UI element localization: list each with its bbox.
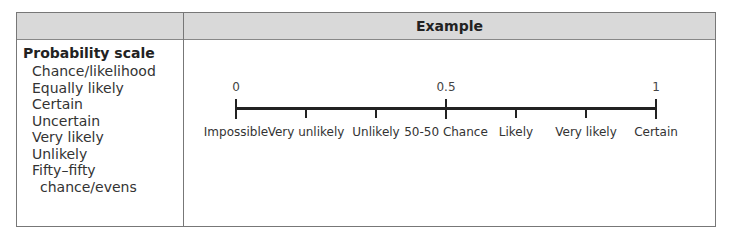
scale-number: 1 <box>652 80 660 94</box>
vocab-item: Uncertain <box>23 113 179 130</box>
scale-number: 0.5 <box>436 80 455 94</box>
vocab-item: chance/evens <box>23 179 179 196</box>
scale-label: Very likely <box>555 125 617 139</box>
tick-minor <box>515 108 517 118</box>
tick-major <box>235 99 237 119</box>
scale-label: Very unlikely <box>268 125 345 139</box>
vocab-item: Certain <box>23 96 179 113</box>
tick-minor <box>305 108 307 118</box>
tick-major <box>445 99 447 119</box>
vocab-item: Equally likely <box>23 80 179 97</box>
vocab-item: Unlikely <box>23 146 179 163</box>
scale-label: Impossible <box>204 125 268 139</box>
probability-table: Example Probability scale Chance/likelih… <box>16 12 716 227</box>
tick-major <box>655 99 657 119</box>
probability-scale: 0 0.5 1 Impossible Very unlikely Unlikel… <box>184 40 715 226</box>
scale-number: 0 <box>232 80 240 94</box>
scale-label: Unlikely <box>352 125 399 139</box>
scale-label: 50-50 Chance <box>404 125 488 139</box>
vocab-item: Fifty–fifty <box>23 162 179 179</box>
scale-label: Likely <box>499 125 533 139</box>
vocabulary-heading: Probability scale <box>23 45 179 62</box>
header-example: Example <box>184 13 715 39</box>
vocabulary-column: Probability scale Chance/likelihood Equa… <box>23 45 179 195</box>
vocab-item: Very likely <box>23 129 179 146</box>
vocab-item: Chance/likelihood <box>23 63 179 80</box>
tick-minor <box>375 108 377 118</box>
tick-minor <box>585 108 587 118</box>
scale-label: Certain <box>634 125 678 139</box>
